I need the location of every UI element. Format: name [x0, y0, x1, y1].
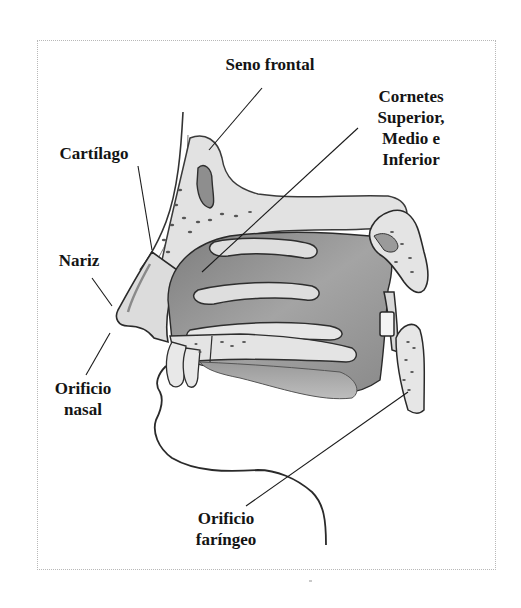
- label-cornetes-line1: Cornetes: [356, 86, 466, 107]
- label-seno-frontal: Seno frontal: [210, 54, 330, 75]
- label-orificio-faringeo-line1: Orificio: [180, 508, 272, 529]
- pharyngeal-wall: [396, 324, 424, 413]
- label-cornetes-line4: Inferior: [356, 149, 466, 170]
- leader-nariz: [92, 278, 112, 306]
- label-orificio-nasal-line1: Orificio: [40, 378, 126, 399]
- leader-cartilago: [138, 166, 152, 250]
- label-cornetes-line3: Medio e: [356, 128, 466, 149]
- label-orificio-nasal: Orificio nasal: [40, 378, 126, 420]
- teeth: [166, 342, 200, 387]
- pharynx: [380, 292, 424, 413]
- label-orificio-faringeo-line2: faríngeo: [180, 529, 272, 550]
- label-cornetes: Cornetes Superior, Medio e Inferior: [356, 86, 466, 170]
- label-cornetes-line2: Superior,: [356, 107, 466, 128]
- leader-seno-frontal: [209, 88, 262, 150]
- leader-orificio-nasal: [86, 333, 110, 375]
- label-orificio-nasal-line2: nasal: [40, 399, 126, 420]
- label-orificio-faringeo: Orificio faríngeo: [180, 508, 272, 550]
- leader-orificio-faringeo: [246, 392, 408, 506]
- label-nariz: Nariz: [44, 250, 114, 271]
- print-speck: [309, 580, 312, 582]
- label-cartilago: Cartílago: [44, 143, 144, 164]
